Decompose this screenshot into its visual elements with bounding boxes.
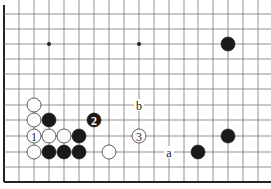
white-stone bbox=[27, 145, 41, 159]
black-stone bbox=[221, 37, 235, 51]
move-number: 1 bbox=[31, 130, 37, 144]
point-label-a: a bbox=[166, 146, 172, 160]
black-stone bbox=[42, 113, 56, 127]
black-stone bbox=[57, 145, 71, 159]
star-point bbox=[47, 42, 51, 46]
black-stone bbox=[72, 145, 86, 159]
white-stone bbox=[27, 113, 41, 127]
white-stone bbox=[42, 129, 56, 143]
black-stone-2: 2 bbox=[87, 113, 101, 128]
black-stone bbox=[72, 129, 86, 143]
stones: 213 bbox=[27, 37, 235, 159]
move-number: 2 bbox=[91, 114, 97, 128]
white-stone bbox=[102, 145, 116, 159]
white-stone-3: 3 bbox=[132, 129, 146, 144]
black-stone bbox=[42, 145, 56, 159]
white-stone bbox=[57, 129, 71, 143]
star-point bbox=[137, 42, 141, 46]
go-board: ba 213 bbox=[0, 0, 271, 189]
black-stone bbox=[191, 145, 205, 159]
black-stone bbox=[221, 129, 235, 143]
white-stone bbox=[27, 98, 41, 112]
move-number: 3 bbox=[136, 130, 142, 144]
point-label-b: b bbox=[136, 99, 142, 113]
white-stone-1: 1 bbox=[27, 129, 41, 144]
